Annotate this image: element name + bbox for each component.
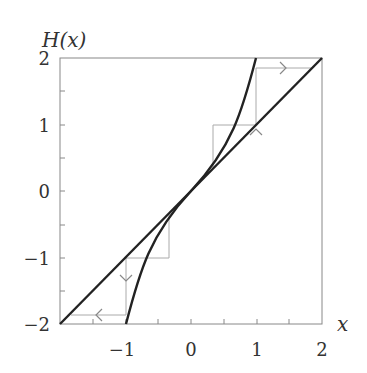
chart: H(x) x 2 1 0 −1 −2 −1 0 1 2 [0,0,367,373]
x-tick-1: 1 [251,339,262,360]
x-tick-0: 0 [185,339,196,360]
y-tick-2: 2 [39,48,50,69]
x-tick-m1: −1 [109,339,136,360]
y-tick-m1: −1 [23,248,50,269]
y-tick-1: 1 [39,115,50,136]
x-tick-2: 2 [316,339,327,360]
y-tick-0: 0 [39,181,50,202]
x-axis-label: x [337,312,348,336]
y-tick-m2: −2 [23,314,50,335]
h-curve [126,58,256,324]
